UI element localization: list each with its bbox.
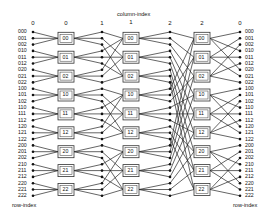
node-dot: [169, 119, 172, 122]
row-label-right: 222: [245, 193, 254, 198]
node-dot: [169, 144, 172, 147]
node-dot: [239, 62, 242, 65]
node-dot: [169, 31, 172, 34]
node-dot: [101, 100, 104, 103]
node-dot: [32, 100, 35, 103]
node-dot: [169, 94, 172, 97]
node-dot: [101, 188, 104, 191]
node-dot: [32, 182, 35, 185]
node-dot: [32, 132, 35, 135]
node-dot: [239, 75, 242, 78]
node-dot: [101, 75, 104, 78]
column-header: 0: [64, 20, 67, 26]
node-dot: [101, 106, 104, 109]
column-index-label: column-index: [117, 12, 150, 18]
node-dot: [169, 169, 172, 172]
switch-label: 21: [128, 168, 134, 173]
row-label-right: 202: [245, 155, 254, 160]
network-wires: [0, 0, 274, 223]
node-dot: [32, 195, 35, 198]
node-dot: [169, 106, 172, 109]
switch-label: 00: [128, 36, 134, 41]
node-dot: [32, 81, 35, 84]
node-dot: [239, 125, 242, 128]
node-dot: [239, 176, 242, 179]
switch-label: 22: [63, 187, 69, 192]
row-label-right: 020: [245, 67, 254, 72]
node-dot: [239, 50, 242, 53]
row-label-right: 111: [245, 111, 253, 116]
node-dot: [32, 169, 35, 172]
row-label-left: 122: [18, 137, 27, 142]
switch-label: 20: [63, 149, 69, 154]
switch-label: 10: [63, 92, 69, 97]
node-dot: [169, 56, 172, 59]
node-dot: [169, 87, 172, 90]
node-dot: [32, 43, 35, 46]
switch-label: 01: [128, 55, 134, 60]
switch-label: 12: [199, 130, 205, 135]
switch-label: 22: [199, 187, 205, 192]
node-dot: [32, 138, 35, 141]
node-dot: [32, 87, 35, 90]
node-dot: [101, 150, 104, 153]
node-dot: [239, 31, 242, 34]
node-dot: [101, 132, 104, 135]
multistage-network-diagram: column-index row-index row-index 0011220…: [0, 0, 274, 223]
switch-label: 20: [199, 149, 205, 154]
node-dot: [169, 81, 172, 84]
row-label-right: 101: [245, 92, 254, 97]
column-header: 1: [100, 20, 103, 26]
node-dot: [239, 157, 242, 160]
switch-label: 22: [128, 187, 134, 192]
row-label-right: 000: [245, 29, 254, 34]
node-dot: [32, 50, 35, 53]
node-dot: [169, 188, 172, 191]
node-dot: [169, 69, 172, 72]
node-dot: [32, 69, 35, 72]
node-dot: [32, 106, 35, 109]
switch-label: 02: [199, 74, 205, 79]
node-dot: [239, 81, 242, 84]
row-label-left: 202: [18, 155, 27, 160]
row-label-left: 010: [18, 48, 27, 53]
node-dot: [169, 132, 172, 135]
switch-label: 11: [63, 111, 68, 116]
node-dot: [239, 182, 242, 185]
node-dot: [239, 163, 242, 166]
row-label-right: 122: [245, 137, 254, 142]
switch-label: 01: [199, 55, 205, 60]
node-dot: [32, 188, 35, 191]
node-dot: [101, 37, 104, 40]
node-dot: [239, 138, 242, 141]
row-label-left: 021: [18, 74, 27, 79]
node-dot: [239, 106, 242, 109]
node-dot: [32, 119, 35, 122]
switch-label: 00: [199, 36, 205, 41]
node-dot: [32, 125, 35, 128]
node-dot: [101, 138, 104, 141]
node-dot: [101, 43, 104, 46]
column-header: 2: [168, 20, 171, 26]
switch-label: 00: [63, 36, 69, 41]
switch-label: 12: [63, 130, 69, 135]
row-label-left: 212: [18, 174, 27, 179]
node-dot: [239, 56, 242, 59]
node-dot: [32, 75, 35, 78]
node-dot: [101, 195, 104, 198]
node-dot: [239, 195, 242, 198]
column-header: 0: [238, 20, 241, 26]
node-dot: [101, 169, 104, 172]
node-dot: [169, 150, 172, 153]
node-dot: [239, 150, 242, 153]
row-label-left: 000: [18, 29, 27, 34]
row-label-left: 101: [18, 92, 27, 97]
node-dot: [169, 100, 172, 103]
switch-label: 10: [128, 92, 134, 97]
node-dot: [32, 157, 35, 160]
row-label-left: 020: [18, 67, 27, 72]
row-label-left: 222: [18, 193, 27, 198]
node-dot: [239, 94, 242, 97]
node-dot: [32, 113, 35, 116]
switch-label: 20: [128, 149, 134, 154]
